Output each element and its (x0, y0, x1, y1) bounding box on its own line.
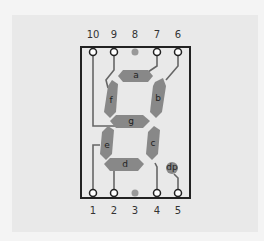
segment-label-c: c (146, 139, 160, 148)
pin-label-4: 4 (147, 206, 167, 216)
pin-label-5: 5 (168, 206, 188, 216)
pin-label-8: 8 (125, 30, 145, 40)
segment-label-dp: dp (165, 163, 179, 172)
bottom-pins (90, 190, 182, 197)
pin-label-2: 2 (104, 206, 124, 216)
segment-label-d: d (118, 160, 132, 169)
segment-label-e: e (100, 141, 114, 150)
segment-label-g: g (124, 117, 138, 126)
pin-label-9: 9 (104, 30, 124, 40)
segment-label-a: a (129, 71, 143, 80)
pin-label-10: 10 (83, 30, 103, 40)
pin-label-3: 3 (125, 206, 145, 216)
pin-label-1: 1 (83, 206, 103, 216)
segment-label-f: f (104, 96, 118, 105)
top-pins (90, 49, 182, 56)
pin-label-6: 6 (168, 30, 188, 40)
segment-label-b: b (151, 94, 165, 103)
pin-label-7: 7 (147, 30, 167, 40)
